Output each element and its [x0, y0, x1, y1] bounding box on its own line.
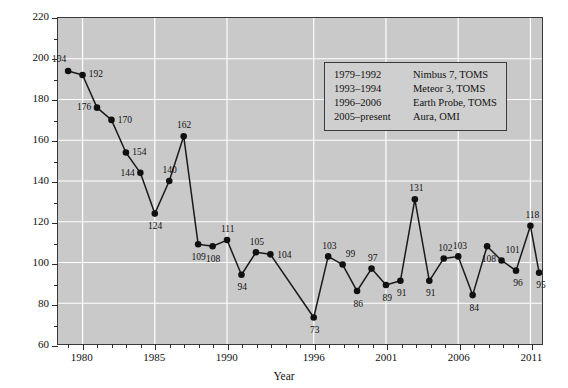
legend-period: 2005–present: [334, 110, 413, 124]
y-axis-tick-label: 120: [9, 216, 49, 227]
y-axis-minor-tick: [54, 121, 58, 122]
legend-period: 1993–1994: [334, 82, 413, 96]
legend-instrument: Nimbus 7, TOMS: [413, 68, 488, 82]
x-axis-minor-tick: [184, 344, 185, 348]
x-axis-minor-tick: [97, 344, 98, 348]
instrument-legend: 1979–1992Nimbus 7, TOMS1993–1994Meteor 3…: [324, 62, 507, 131]
legend-row: 1993–1994Meteor 3, TOMS: [334, 82, 497, 96]
x-axis-minor-tick: [402, 344, 403, 348]
x-axis-minor-tick: [141, 344, 142, 348]
x-axis-minor-tick: [416, 344, 417, 348]
x-axis-tick-label: 1985: [131, 352, 177, 363]
y-axis-minor-tick: [54, 285, 58, 286]
x-axis-minor-tick: [431, 344, 432, 348]
x-axis-tick: [155, 344, 156, 350]
y-axis-tick: [52, 59, 58, 60]
x-axis-minor-tick: [474, 344, 475, 348]
x-axis-tick: [532, 344, 533, 350]
x-axis-tick-label: 1990: [204, 352, 250, 363]
x-axis-minor-tick: [257, 344, 258, 348]
y-axis-minor-tick: [54, 80, 58, 81]
x-axis-tick: [228, 344, 229, 350]
x-axis-tick-label: 2011: [508, 352, 554, 363]
x-axis-tick-label: 2006: [436, 352, 482, 363]
y-axis-tick-label: 140: [9, 175, 49, 186]
x-axis-minor-tick: [213, 344, 214, 348]
x-axis-minor-tick: [300, 344, 301, 348]
x-axis-minor-tick: [445, 344, 446, 348]
x-axis-minor-tick: [271, 344, 272, 348]
y-axis-tick-label: 100: [9, 257, 49, 268]
y-axis-tick-label: 60: [9, 339, 49, 350]
plot-area: 1941921761701541441241401621091081119410…: [57, 17, 543, 345]
y-axis-tick-label: 80: [9, 298, 49, 309]
x-axis-minor-tick: [373, 344, 374, 348]
legend-period: 1996–2006: [334, 96, 413, 110]
ozone-chart-figure: Minimum ozone (DU) 194192176170154144124…: [0, 0, 568, 388]
legend-row: 1996–2006Earth Probe, TOMS: [334, 96, 497, 110]
y-axis-tick: [52, 182, 58, 183]
y-axis-tick: [52, 346, 58, 347]
x-axis-minor-tick: [503, 344, 504, 348]
y-axis-minor-tick: [54, 162, 58, 163]
x-axis-minor-tick: [286, 344, 287, 348]
x-axis-minor-tick: [344, 344, 345, 348]
x-axis-minor-tick: [170, 344, 171, 348]
x-axis-tick-label: 1996: [291, 352, 337, 363]
y-axis-minor-tick: [54, 244, 58, 245]
legend-row: 2005–presentAura, OMI: [334, 110, 497, 124]
x-axis-minor-tick: [329, 344, 330, 348]
y-axis-tick: [52, 18, 58, 19]
legend-period: 1979–1992: [334, 68, 413, 82]
y-axis-tick: [52, 141, 58, 142]
legend-row: 1979–1992Nimbus 7, TOMS: [334, 68, 497, 82]
x-axis-minor-tick: [518, 344, 519, 348]
y-axis-tick: [52, 100, 58, 101]
y-axis-tick-label: 220: [9, 11, 49, 22]
x-axis-minor-tick: [489, 344, 490, 348]
y-axis-tick-label: 200: [9, 52, 49, 63]
x-axis-title: Year: [0, 370, 568, 382]
y-axis-tick-label: 180: [9, 93, 49, 104]
y-axis-tick: [52, 305, 58, 306]
y-axis-minor-tick: [54, 326, 58, 327]
legend-instrument: Aura, OMI: [413, 110, 460, 124]
x-axis-tick: [315, 344, 316, 350]
x-axis-minor-tick: [242, 344, 243, 348]
legend-instrument: Meteor 3, TOMS: [413, 82, 485, 96]
x-axis-minor-tick: [68, 344, 69, 348]
x-axis-tick: [387, 344, 388, 350]
legend-instrument: Earth Probe, TOMS: [413, 96, 497, 110]
x-axis-minor-tick: [199, 344, 200, 348]
y-axis-minor-tick: [54, 203, 58, 204]
x-axis-tick: [83, 344, 84, 350]
x-axis-tick-label: 2001: [363, 352, 409, 363]
y-axis-tick-label: 160: [9, 134, 49, 145]
x-axis-tick: [460, 344, 461, 350]
y-axis-tick: [52, 264, 58, 265]
y-axis-minor-tick: [54, 39, 58, 40]
x-axis-tick-label: 1980: [59, 352, 105, 363]
x-axis-minor-tick: [126, 344, 127, 348]
y-axis-tick: [52, 223, 58, 224]
x-axis-minor-tick: [358, 344, 359, 348]
x-axis-minor-tick: [112, 344, 113, 348]
